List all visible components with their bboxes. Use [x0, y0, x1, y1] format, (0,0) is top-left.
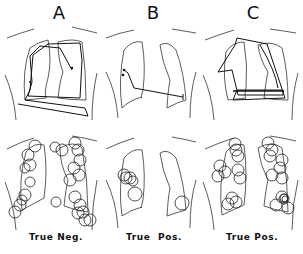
right-clavicle-line: [172, 29, 196, 33]
right-clavicle-line: [172, 137, 196, 142]
scan-path-line: [18, 43, 88, 116]
left-clavicle-line: [106, 30, 134, 38]
fixation-circle: [51, 197, 61, 207]
right-body-edge: [92, 180, 97, 230]
fixation-circle: [25, 177, 35, 187]
left-body-edge: [203, 75, 214, 120]
fixation-circle: [29, 140, 41, 152]
left-lung-outline: [120, 150, 144, 216]
left-body-edge: [106, 180, 118, 228]
caption-true-neg: True Neg.: [29, 232, 83, 242]
column-label-c: C: [238, 2, 268, 23]
right-body-edge: [92, 73, 97, 120]
fixation-circle: [69, 137, 81, 149]
left-clavicle-line: [7, 29, 34, 38]
left-body-edge: [5, 75, 16, 120]
right-body-edge: [190, 72, 196, 118]
left-clavicle-line: [106, 138, 134, 149]
fixation-circle: [128, 187, 142, 201]
right-body-edge: [190, 180, 196, 228]
left-lung-outline: [221, 144, 246, 215]
panel-c-scanpath: [203, 29, 298, 120]
column-label-b: B: [138, 2, 168, 23]
caption-true-pos-b: True Pos.: [126, 232, 182, 242]
right-body-edge: [292, 73, 298, 120]
scan-path-line: [124, 70, 183, 97]
caption-true-pos-c: True Pos.: [226, 232, 278, 242]
fixation-circle: [84, 214, 96, 226]
fixation-circle: [79, 214, 91, 226]
left-body-edge: [203, 182, 214, 230]
fixation-circles: [9, 137, 96, 226]
panel-a-scanpath: [5, 27, 97, 120]
panel-b-fixations: [106, 137, 196, 228]
fixation-circle: [50, 142, 60, 152]
right-lung-outline: [160, 151, 186, 216]
fixation-circle: [128, 176, 138, 186]
column-label-a: A: [44, 2, 74, 23]
fixation-marker: [71, 67, 73, 69]
panel-b-scanpath: [106, 29, 196, 118]
fixation-circle: [282, 196, 288, 202]
fixation-circle: [262, 137, 274, 149]
fixation-marker: [29, 81, 31, 83]
fixation-marker: [123, 69, 126, 72]
left-lung-outline: [21, 144, 46, 210]
right-clavicle-line: [72, 27, 97, 33]
fixation-circle: [280, 194, 288, 202]
panel-c-fixations: [203, 136, 298, 230]
fixation-circles: [118, 169, 189, 210]
fixation-circle: [175, 196, 189, 210]
fixation-marker: [122, 74, 125, 77]
fixation-circle: [64, 174, 76, 186]
fixation-circle: [234, 172, 246, 184]
right-clavicle-line: [270, 136, 296, 141]
fixation-circle: [270, 199, 282, 211]
fixation-circle: [56, 144, 68, 156]
fixation-circle: [276, 154, 288, 166]
fixation-circle: [232, 164, 244, 176]
panel-a-fixations: [5, 136, 97, 230]
right-clavicle-line: [270, 29, 296, 33]
right-lung-outline: [160, 43, 186, 108]
left-body-edge: [106, 72, 118, 118]
eye-tracking-figure: [0, 0, 303, 254]
left-clavicle-line: [205, 30, 234, 40]
